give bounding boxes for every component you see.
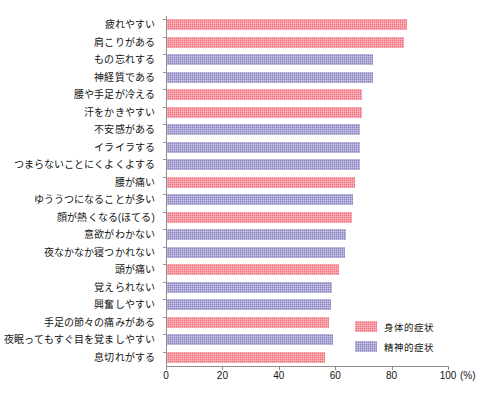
- bar-physical: [167, 37, 404, 48]
- bar-row: [167, 16, 449, 34]
- legend-item-mental[interactable]: 精神的症状: [355, 338, 434, 355]
- y-axis-tick: [163, 334, 166, 335]
- bar-mental: [167, 229, 346, 240]
- bar-physical: [167, 212, 352, 223]
- x-axis-tick-label: 60: [330, 370, 341, 381]
- bar-mental: [167, 159, 360, 170]
- y-axis-tick: [163, 299, 166, 300]
- bar-row: [167, 244, 449, 262]
- bar-mental: [167, 299, 331, 310]
- bar-chart: 疲れやすい肩こりがあるもの忘れする神経質である腰や手足が冷える汗をかきやすい不安…: [0, 0, 497, 399]
- bar-row: [167, 86, 449, 104]
- category-label-column: 疲れやすい肩こりがあるもの忘れする神経質である腰や手足が冷える汗をかきやすい不安…: [0, 16, 162, 366]
- x-axis-ticks: 020406080100: [166, 366, 449, 372]
- bar-physical: [167, 264, 339, 275]
- category-label: 腰が痛い: [0, 174, 162, 192]
- plot-area: [166, 16, 449, 366]
- y-axis-tick: [163, 159, 166, 160]
- category-label: もの忘れする: [0, 51, 162, 69]
- category-label: 覚えられない: [0, 279, 162, 297]
- bar-physical: [167, 89, 362, 100]
- category-label: 夜なかなか寝つかれない: [0, 244, 162, 262]
- y-axis-tick: [163, 194, 166, 195]
- x-axis-tick-label: 80: [386, 370, 397, 381]
- bar-row: [167, 121, 449, 139]
- bar-row: [167, 226, 449, 244]
- category-label: 疲れやすい: [0, 16, 162, 34]
- category-label: 神経質である: [0, 69, 162, 87]
- bar-mental: [167, 72, 373, 83]
- bar-mental: [167, 334, 333, 345]
- category-label: 興奮しやすい: [0, 296, 162, 314]
- y-axis-tick: [163, 37, 166, 38]
- category-label: 肩こりがある: [0, 34, 162, 52]
- y-axis-tick: [163, 89, 166, 90]
- legend-swatch-mental: [355, 341, 377, 352]
- category-label: 意欲がわかない: [0, 226, 162, 244]
- y-axis-tick: [163, 177, 166, 178]
- y-axis-tick: [163, 212, 166, 213]
- legend-label: 身体的症状: [384, 320, 434, 334]
- bar-row: [167, 209, 449, 227]
- category-label: ゆううつになることが多い: [0, 191, 162, 209]
- bar-physical: [167, 107, 362, 118]
- category-label: 顔が熱くなる(ほてる): [0, 209, 162, 227]
- bar-mental: [167, 194, 353, 205]
- y-axis-tick: [163, 72, 166, 73]
- y-axis-tick: [163, 107, 166, 108]
- bar-mental: [167, 247, 345, 258]
- bar-row: [167, 296, 449, 314]
- bar-physical: [167, 352, 325, 363]
- bar-mental: [167, 124, 360, 135]
- bar-series-container: [167, 16, 449, 366]
- legend-label: 精神的症状: [384, 340, 434, 354]
- x-axis-tick-label: 20: [217, 370, 228, 381]
- bar-physical: [167, 19, 407, 30]
- x-axis-tick-label: 40: [273, 370, 284, 381]
- x-axis-tick-label: 0: [163, 370, 169, 381]
- x-axis-unit-label: (%): [460, 370, 476, 381]
- bar-physical: [167, 317, 329, 328]
- y-axis-tick: [163, 317, 166, 318]
- category-label: 息切れがする: [0, 349, 162, 367]
- bar-row: [167, 156, 449, 174]
- y-axis-tick: [163, 19, 166, 20]
- bar-row: [167, 69, 449, 87]
- bar-mental: [167, 282, 332, 293]
- y-axis-tick: [163, 264, 166, 265]
- y-axis-tick: [163, 229, 166, 230]
- category-label: 頭が痛い: [0, 261, 162, 279]
- bar-row: [167, 139, 449, 157]
- bar-row: [167, 174, 449, 192]
- bar-physical: [167, 177, 355, 188]
- bar-row: [167, 34, 449, 52]
- category-label: 汗をかきやすい: [0, 104, 162, 122]
- y-axis-tick: [163, 124, 166, 125]
- legend-item-physical[interactable]: 身体的症状: [355, 318, 434, 335]
- category-label: イライラする: [0, 139, 162, 157]
- y-axis-tick: [163, 54, 166, 55]
- bar-row: [167, 279, 449, 297]
- y-axis-tick: [163, 352, 166, 353]
- x-axis-tick-label: 100: [440, 370, 457, 381]
- category-label: つまらないことにくよくよする: [0, 156, 162, 174]
- bar-mental: [167, 54, 373, 65]
- bar-row: [167, 191, 449, 209]
- category-label: 夜眠ってもすぐ目を覚ましやすい: [0, 331, 162, 349]
- category-label: 不安感がある: [0, 121, 162, 139]
- bar-row: [167, 104, 449, 122]
- y-axis-tick: [163, 247, 166, 248]
- legend-swatch-physical: [355, 321, 377, 332]
- category-label: 手足の節々の痛みがある: [0, 314, 162, 332]
- y-axis-tick: [163, 282, 166, 283]
- category-label: 腰や手足が冷える: [0, 86, 162, 104]
- bar-row: [167, 51, 449, 69]
- chart-legend: 身体的症状精神的症状: [355, 318, 434, 358]
- y-axis-tick: [163, 142, 166, 143]
- bar-row: [167, 261, 449, 279]
- bar-mental: [167, 142, 360, 153]
